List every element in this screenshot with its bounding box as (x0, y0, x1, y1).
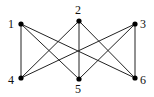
labels: 123456 (8, 3, 146, 96)
node-1 (18, 21, 23, 26)
node-2 (76, 18, 81, 23)
node-5 (76, 76, 81, 81)
node-label-4: 4 (8, 73, 14, 87)
edge-2-4 (21, 21, 79, 78)
node-label-5: 5 (75, 82, 81, 96)
edges (21, 21, 135, 79)
edge-1-5 (21, 24, 79, 79)
node-label-3: 3 (140, 17, 146, 31)
edge-2-6 (79, 21, 135, 78)
bipartite-graph: 123456 (0, 0, 154, 97)
node-4 (18, 75, 23, 80)
node-label-6: 6 (140, 73, 146, 87)
nodes (18, 18, 137, 81)
node-3 (132, 21, 137, 26)
edge-3-5 (79, 24, 135, 79)
node-label-2: 2 (75, 3, 81, 17)
node-label-1: 1 (8, 17, 14, 31)
node-6 (132, 75, 137, 80)
